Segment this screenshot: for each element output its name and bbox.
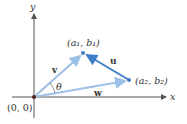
angle-theta-arc bbox=[50, 83, 55, 93]
x-axis-label: x bbox=[170, 91, 176, 102]
vector-w-label: w bbox=[93, 88, 102, 98]
point-a2-b2-label: (a₂, b₂) bbox=[135, 75, 168, 86]
vector-u bbox=[87, 55, 129, 80]
vector-diagram: x y θ (a₁, b₁) (a₂, b₂) (0, 0) v w u bbox=[0, 0, 187, 124]
vector-v-label: v bbox=[51, 65, 58, 75]
vector-u-label: u bbox=[110, 56, 117, 66]
origin-dot bbox=[32, 95, 36, 99]
origin-label: (0, 0) bbox=[7, 102, 33, 113]
point-a2-b2 bbox=[127, 78, 131, 82]
point-a1-b1-label: (a₁, b₁) bbox=[67, 37, 100, 48]
y-axis-label: y bbox=[29, 1, 36, 12]
angle-theta-label: θ bbox=[56, 81, 62, 92]
vector-w bbox=[34, 81, 125, 97]
point-a1-b1 bbox=[81, 51, 85, 55]
